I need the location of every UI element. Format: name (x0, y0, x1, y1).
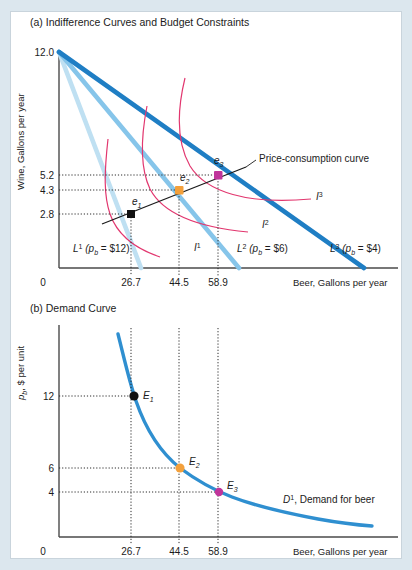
panel-a-y-axis-label: Wine, Gallons per year (15, 93, 26, 190)
panel-b-title: (b) Demand Curve (30, 302, 117, 314)
panel-b-y-axis-label: pb, $ per unit (15, 346, 28, 401)
point-e3 (214, 171, 223, 180)
panel-a-ytick-2-8: 2.8 (40, 209, 54, 220)
point-E2-label: E2 (189, 456, 200, 469)
point-e2 (175, 186, 184, 195)
panel-a-ytick-4-3: 4.3 (40, 185, 54, 196)
budget-line-l2-label: L2 (pb = $6) (237, 243, 288, 256)
point-E2 (175, 463, 184, 472)
point-E3 (215, 488, 223, 496)
point-e1 (127, 210, 135, 218)
price-consumption-curve-label: Price-consumption curve (259, 153, 369, 164)
figure-root: (a) Indifference Curves and Budget Const… (0, 0, 412, 570)
panel-b-xtick-26-7: 26.7 (121, 546, 141, 557)
panel-b-xtick-58-9: 58.9 (208, 546, 228, 557)
price-consumption-curve (102, 167, 246, 224)
panel-b-ytick-4: 4 (48, 487, 54, 498)
point-e1-label: e1 (132, 196, 142, 209)
panel-b: (b) Demand Curve pb, $ per unit (15, 302, 398, 557)
panel-b-x-axis-label: Beer, Gallons per year (293, 546, 388, 557)
point-e2-label: e2 (180, 172, 190, 185)
point-E3-label: E3 (227, 480, 238, 493)
panel-a-xtick-58-9: 58.9 (208, 277, 228, 288)
indifference-curve-i2-label: I2 (262, 219, 269, 231)
budget-line-l1-label: L1 (pb = $12) (73, 243, 129, 256)
panel-b-ytick-6: 6 (48, 463, 54, 474)
panel-a-ytick-5-2: 5.2 (40, 170, 54, 181)
panel-b-origin-label: 0 (40, 546, 46, 557)
point-E1 (129, 391, 138, 400)
panel-a-ytick-12-0: 12.0 (35, 47, 55, 58)
budget-line-l1 (59, 52, 141, 268)
panel-a-xtick-44-5: 44.5 (169, 277, 189, 288)
indifference-curve-i1-label: I1 (194, 242, 201, 254)
panel-b-ytick-12: 12 (43, 391, 55, 402)
point-E1-label: E1 (143, 390, 154, 403)
budget-line-l3-label: L3 (pb = $4) (330, 243, 381, 256)
economics-figure: (a) Indifference Curves and Budget Const… (0, 0, 412, 570)
pcc-leader-line (246, 160, 256, 167)
indifference-curve-i3-label: I3 (316, 191, 323, 203)
demand-curve-label: D1, Demand for beer (283, 494, 375, 506)
panel-a-x-axis-label: Beer, Gallons per year (293, 277, 388, 288)
panel-a-origin-label: 0 (40, 277, 46, 288)
panel-a-title: (a) Indifference Curves and Budget Const… (30, 16, 249, 28)
point-e3-label: e3 (214, 155, 224, 168)
panel-a: (a) Indifference Curves and Budget Const… (15, 16, 398, 288)
panel-a-xtick-26-7: 26.7 (121, 277, 141, 288)
panel-b-xtick-44-5: 44.5 (169, 546, 189, 557)
